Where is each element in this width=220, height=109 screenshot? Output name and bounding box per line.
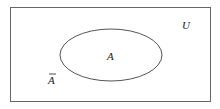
complement-label: A [47, 74, 55, 86]
venn-diagram: U A A [0, 0, 220, 109]
set-a-label: A [106, 50, 114, 62]
universe-label: U [182, 19, 191, 31]
